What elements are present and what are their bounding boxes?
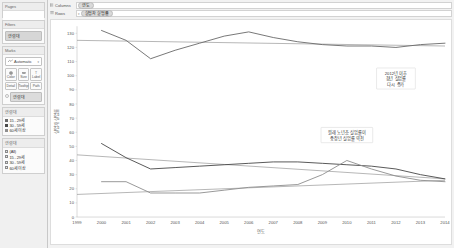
filter-checkbox-senior[interactable]: 60세 이상 — [5, 165, 42, 171]
tableau-workbook: Pages Filters 연령대 Marks Automatic ▾ — [0, 0, 454, 248]
y-tick-label: 70 — [69, 116, 74, 121]
legend-swatch — [5, 129, 8, 132]
trend-line — [77, 180, 445, 194]
series-lines[interactable] — [102, 30, 445, 193]
marks-card: Marks Automatic ▾ — [2, 46, 45, 105]
checkbox-icon[interactable] — [5, 166, 8, 169]
x-tick-label: 2012 — [391, 220, 401, 225]
filter-legend-items: (All) 15 - 29세 30 - 59세 — [3, 148, 44, 173]
x-tick-label: 2009 — [318, 220, 328, 225]
sidebar-spacer — [2, 176, 45, 247]
y-tick-label: 60 — [69, 130, 74, 135]
columns-shelf-label: Columns — [50, 3, 74, 8]
marks-tooltip-button[interactable]: Tooltip — [18, 82, 30, 90]
y-axis-title: 실업자 실업률 — [53, 109, 60, 135]
marks-label-label: Label — [32, 75, 40, 79]
columns-icon — [50, 3, 54, 8]
checkbox-icon[interactable] — [5, 161, 8, 164]
annotation-line: 중장년 실업률 역전 — [330, 135, 364, 142]
chevron-down-icon[interactable]: ▾ — [78, 12, 80, 16]
x-tick-label: 2003 — [170, 220, 180, 225]
filter-legend-title: 연령대 — [3, 139, 44, 148]
marks-size-label: Size — [20, 75, 27, 79]
filter-label: 60세 이상 — [10, 165, 27, 171]
marks-detail-button[interactable]: Detail — [5, 82, 17, 90]
rows-pill-unemployment[interactable]: 실업자 실업률 — [81, 10, 113, 17]
sidebar: Pages Filters 연령대 Marks Automatic ▾ — [0, 0, 48, 248]
pages-title: Pages — [3, 3, 44, 11]
y-tick-label: 80 — [69, 101, 74, 106]
series-line[interactable] — [102, 160, 445, 193]
x-tick-label: 2001 — [121, 220, 131, 225]
color-legend-icon — [5, 94, 9, 99]
x-tick-label: 2005 — [220, 220, 230, 225]
y-axis: 0102030405060708090100110120130 실업자 실업률 — [53, 26, 77, 219]
checkbox-icon[interactable] — [5, 150, 8, 153]
mark-type-label: Automatic — [14, 59, 32, 64]
shelf-area: Columns 연도 Rows ▾ 실업자 실업률 — [48, 0, 454, 18]
rows-shelf-row: Rows ▾ 실업자 실업률 — [50, 10, 452, 17]
y-tick-label: 110 — [67, 59, 74, 64]
x-tick-label: 2004 — [195, 220, 205, 225]
y-tick-label: 30 — [69, 172, 74, 177]
legend-label: 60세 이상 — [10, 127, 27, 133]
y-tick-label: 10 — [69, 200, 74, 205]
line-chart[interactable]: 0102030405060708090100110120130 실업자 실업률 … — [51, 20, 451, 244]
rows-drop-target[interactable]: ▾ 실업자 실업률 — [76, 10, 452, 17]
series-line[interactable] — [102, 30, 445, 58]
rows-text: Rows — [55, 11, 65, 16]
filters-shelf[interactable]: 연령대 — [3, 29, 44, 43]
marks-title: Marks — [3, 47, 44, 55]
x-tick-label: 2013 — [416, 220, 426, 225]
columns-drop-target[interactable]: 연도 — [76, 2, 452, 9]
marks-buttons-row-1: Color Size T Label — [5, 68, 42, 81]
x-axis-title: 연도 — [257, 228, 265, 234]
annotation-youth[interactable]: 2012년 이후청년 실업률다시 증가 — [377, 68, 416, 89]
chart-view[interactable]: 0102030405060708090100110120130 실업자 실업률 … — [50, 19, 452, 245]
marks-size-button[interactable]: Size — [18, 68, 30, 81]
trend-line — [77, 155, 445, 179]
mark-type-dropdown[interactable]: Automatic ▾ — [5, 57, 42, 66]
annotation-elderly[interactable]: 원래 노년층 실업률이중장년 실업률 역전 — [321, 127, 373, 142]
marks-encoding-row: 연령대 — [5, 92, 42, 102]
filter-legend-card: 연령대 (All) 15 - 29세 — [2, 138, 45, 174]
y-tick-label: 50 — [69, 144, 74, 149]
marks-color-pill[interactable]: 연령대 — [10, 92, 42, 102]
filters-title: Filters — [3, 21, 44, 29]
filter-pill-age[interactable]: 연령대 — [5, 31, 42, 41]
annotation-line: 청년 실업률 — [386, 75, 407, 81]
y-tick-label: 120 — [67, 45, 75, 50]
x-tick-label: 1999 — [72, 220, 82, 225]
marks-label-button[interactable]: T Label — [30, 68, 42, 81]
columns-pill-year[interactable]: 연도 — [78, 2, 94, 9]
x-tick-label: 2010 — [342, 220, 352, 225]
marks-detail-label: Detail — [6, 84, 15, 88]
line-mark-icon — [8, 59, 13, 64]
y-tick-label: 130 — [67, 31, 75, 36]
chart-annotations[interactable]: 2012년 이후청년 실업률다시 증가원래 노년층 실업률이중장년 실업률 역전 — [321, 68, 415, 143]
annotation-line: 다시 증가 — [387, 81, 404, 88]
legend-swatch — [5, 119, 8, 122]
pages-card: Pages — [2, 2, 45, 18]
trend-lines — [77, 40, 445, 194]
color-legend-items: 15 - 29세 30 - 59세 60세 이상 — [3, 117, 44, 135]
rows-icon — [50, 11, 54, 16]
legend-item[interactable]: 60세 이상 — [5, 128, 42, 133]
y-tick-label: 20 — [69, 186, 74, 191]
x-tick-label: 2008 — [293, 220, 303, 225]
y-tick-label: 0 — [72, 215, 75, 220]
chevron-down-icon[interactable]: ▾ — [37, 60, 39, 64]
legend-swatch — [5, 124, 8, 127]
y-tick-label: 40 — [69, 158, 74, 163]
checkbox-icon[interactable] — [5, 155, 8, 158]
marks-path-button[interactable]: Path — [30, 82, 42, 90]
x-tick-label: 2007 — [269, 220, 279, 225]
x-tick-label: 2002 — [146, 220, 156, 225]
columns-shelf-row: Columns 연도 — [50, 2, 452, 9]
y-tick-label: 90 — [69, 87, 74, 92]
x-axis: 1999200020012002200320042005200620072008… — [72, 217, 450, 234]
marks-color-button[interactable]: Color — [5, 68, 17, 81]
x-tick-label: 2006 — [244, 220, 254, 225]
series-line[interactable] — [102, 144, 445, 179]
y-tick-label: 100 — [67, 73, 75, 78]
